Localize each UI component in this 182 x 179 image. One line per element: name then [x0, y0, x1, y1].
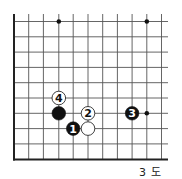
- move-number-label: 4: [55, 92, 63, 105]
- white-stone-icon: [81, 122, 95, 136]
- move-number-label: 1: [69, 123, 77, 136]
- black-stone-icon: [52, 107, 66, 121]
- go-board: 4213: [0, 0, 182, 179]
- star-point-icon: [57, 19, 62, 24]
- diagram-caption: 3 도: [139, 163, 163, 179]
- star-point-icon: [145, 19, 150, 24]
- move-number-label: 3: [128, 107, 136, 120]
- star-point-icon: [145, 111, 150, 116]
- move-number-label: 2: [84, 107, 92, 120]
